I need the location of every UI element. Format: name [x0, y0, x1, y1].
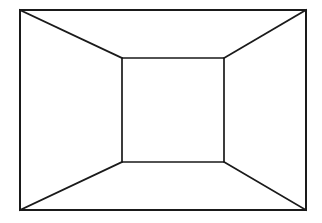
figure-background [0, 0, 322, 223]
figure-canvas [0, 0, 322, 223]
perspective-box-figure [0, 0, 322, 223]
